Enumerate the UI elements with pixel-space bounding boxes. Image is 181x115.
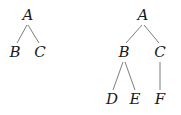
tree-2-node-F: F	[154, 90, 166, 108]
tree-2-edge-A-C	[144, 25, 159, 43]
tree-2-node-E: E	[129, 90, 141, 108]
tree-2-node-B: B	[117, 43, 129, 61]
tree-1-edge-A-C	[28, 25, 39, 43]
tree-1-node-C: C	[34, 43, 46, 61]
tree-2-node-D: D	[105, 90, 118, 108]
tree-2-edge-A-B	[126, 25, 142, 43]
tree-2-node-A: A	[136, 6, 149, 24]
tree-1-edge-A-B	[17, 25, 27, 43]
tree-diagram: ABCABCDEF	[0, 0, 181, 115]
tree-1-node-B: B	[8, 43, 20, 61]
tree-2-edge-B-D	[113, 62, 123, 90]
tree-2-edge-B-E	[125, 62, 135, 90]
tree-2-node-C: C	[154, 43, 166, 61]
tree-1-node-A: A	[21, 6, 34, 24]
nodes: ABCABCDEF	[8, 6, 166, 108]
